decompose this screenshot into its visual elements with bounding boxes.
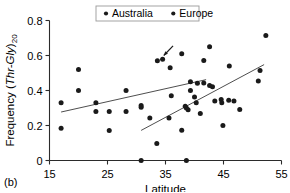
data-point-europe: [201, 80, 206, 85]
data-point-europe: [258, 68, 263, 73]
legend-marker-europe[interactable]: [171, 11, 175, 15]
data-point-europe: [194, 100, 199, 105]
panel-label: (b): [4, 176, 17, 188]
data-point-australia: [179, 51, 184, 56]
data-point-australia: [166, 115, 171, 120]
data-point-australia: [59, 126, 64, 131]
data-point-europe: [237, 107, 242, 112]
data-point-europe: [210, 84, 215, 89]
figure-panel: 00.20.40.60.81525354555LatitudeFrequency…: [0, 0, 290, 192]
y-tick-label: 0: [36, 155, 42, 167]
data-point-australia: [168, 65, 173, 70]
data-point-australia: [139, 105, 144, 110]
data-point-australia: [179, 128, 184, 133]
data-point-australia: [147, 115, 152, 120]
y-tick-label: 0.6: [27, 50, 42, 62]
data-point-europe: [227, 64, 232, 69]
data-point-europe: [212, 99, 217, 104]
data-point-australia: [169, 93, 174, 98]
data-point-australia: [198, 111, 203, 116]
data-point-australia: [76, 67, 81, 72]
data-point-australia: [155, 58, 160, 63]
legend-marker-australia[interactable]: [104, 11, 108, 15]
x-axis-title: Latitude: [145, 183, 186, 193]
y-tick-label: 0.4: [27, 85, 42, 97]
legend-label-europe[interactable]: Europe: [179, 7, 213, 19]
data-point-australia: [124, 88, 129, 93]
x-tick-label: 55: [275, 168, 287, 180]
data-point-europe: [263, 33, 268, 38]
data-point-australia: [139, 158, 144, 163]
data-point-australia: [93, 109, 98, 114]
data-point-europe: [186, 107, 191, 112]
data-point-australia: [107, 109, 112, 114]
data-point-australia: [107, 128, 112, 133]
data-point-europe: [226, 98, 231, 103]
data-point-australia: [154, 141, 159, 146]
data-point-europe: [207, 44, 212, 49]
data-point-europe: [219, 100, 224, 105]
x-tick-label: 25: [101, 168, 113, 180]
y-axis-title: Frequency (Thr-Gly)20: [4, 34, 19, 147]
data-point-australia: [160, 57, 165, 62]
data-point-australia: [124, 109, 129, 114]
data-point-australia: [188, 79, 193, 84]
data-point-australia: [76, 88, 81, 93]
data-point-europe: [256, 78, 261, 83]
data-point-europe: [220, 123, 225, 128]
y-tick-label: 0.8: [27, 15, 42, 27]
y-tick-label: 0.2: [27, 120, 42, 132]
scatter-plot: 00.20.40.60.81525354555LatitudeFrequency…: [0, 0, 290, 192]
x-tick-label: 15: [43, 168, 55, 180]
data-point-australia: [201, 58, 206, 63]
plot-area: 00.20.40.60.81525354555LatitudeFrequency…: [4, 6, 288, 192]
data-point-europe: [192, 94, 197, 99]
data-point-australia: [184, 158, 189, 163]
x-tick-label: 45: [217, 168, 229, 180]
data-point-australia: [195, 81, 200, 86]
x-tick-label: 35: [159, 168, 171, 180]
legend-label-australia[interactable]: Australia: [112, 7, 153, 19]
data-point-australia: [188, 88, 193, 93]
data-point-australia: [59, 100, 64, 105]
data-point-europe: [231, 99, 236, 104]
data-point-australia: [93, 100, 98, 105]
trendline-europe: [141, 65, 264, 131]
